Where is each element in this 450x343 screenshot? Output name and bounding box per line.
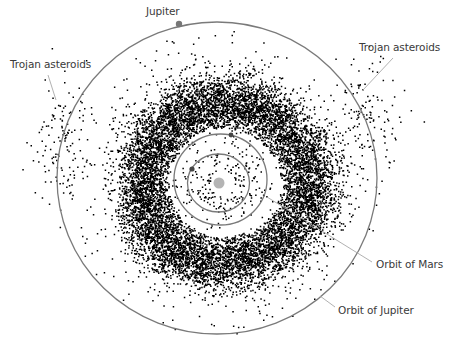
sun-icon bbox=[214, 178, 225, 189]
mars-planet-icon bbox=[229, 133, 234, 138]
earth-planet-icon bbox=[189, 166, 194, 171]
asteroid-belt-diagram: Jupiter Trojan asteroids Trojan asteroid… bbox=[0, 0, 450, 343]
label-orbit-of-mars: Orbit of Mars bbox=[376, 258, 443, 270]
label-orbit-of-jupiter: Orbit of Jupiter bbox=[338, 304, 414, 316]
label-trojan-asteroids-left: Trojan asteroids bbox=[9, 58, 91, 70]
jupiter-planet-icon bbox=[176, 21, 182, 27]
label-trojan-asteroids-right: Trojan asteroids bbox=[358, 41, 440, 53]
label-jupiter: Jupiter bbox=[145, 5, 180, 17]
